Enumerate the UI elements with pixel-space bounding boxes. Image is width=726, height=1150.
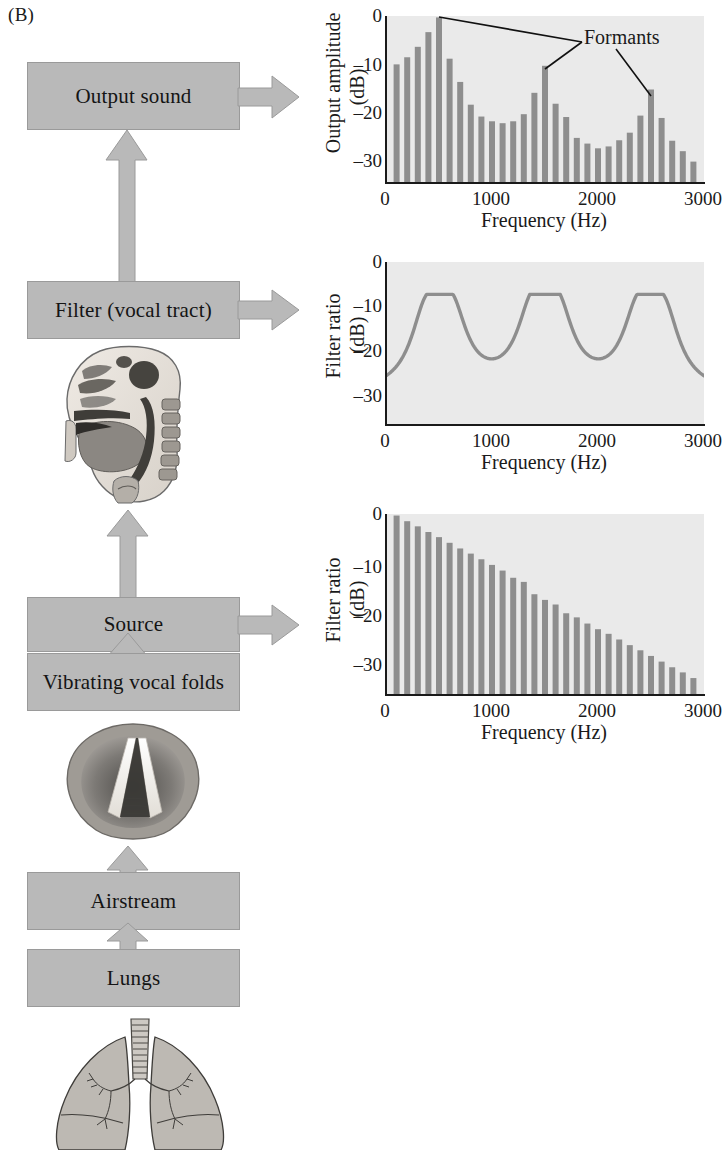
bar [627,645,633,694]
illustration-vocal-folds-larynx [58,718,208,843]
flow-box-label: Airstream [91,889,177,914]
chart3-xtick-0: 0 [365,700,405,722]
bar [584,624,590,694]
bar [489,565,495,694]
bar [531,594,537,694]
bar [542,600,548,694]
chart-output-spectrum: Output amplitude (dB) 0 –10 –20 –30 Form… [300,0,718,232]
bar [425,532,431,694]
bar [659,662,665,694]
flow-box-label: Vibrating vocal folds [43,670,224,695]
chart2-xlabel: Frequency (Hz) [444,451,644,474]
chart3-ytick-m30: –30 [338,654,382,676]
chart2-plot-area [386,262,704,424]
chart3-xlabel: Frequency (Hz) [444,721,644,744]
chart3-plot-area [386,514,704,694]
chart3-y-axis [385,514,387,695]
bar [553,605,559,694]
arrow-up-source-to-filter [107,510,149,600]
illustration-vocal-tract-sagittal [58,345,208,505]
bar [457,548,463,694]
arrow-right-output-sound [238,76,300,118]
bar [468,554,474,694]
chart2-ytick-0: 0 [338,251,382,273]
panel-label: (B) [8,4,34,26]
bar [669,667,675,694]
bar [563,613,569,694]
bar [616,639,622,694]
filter-curve [386,294,704,375]
bar [394,516,400,694]
flow-box-vibrating-vocal-folds[interactable]: Vibrating vocal folds [27,653,240,711]
arrow-up-filter-to-output [106,130,148,282]
bar [404,521,410,694]
bar [510,578,516,694]
chart2-curve [386,262,704,424]
chart1-xtick-3000: 3000 [672,188,726,210]
chart-source-spectrum: Filter ratio (dB) 0 –10 –20 –30 0 1000 2… [300,498,718,758]
flow-box-label: Output sound [75,84,191,109]
arrow-right-filter [238,290,300,330]
bar [521,582,527,694]
bar [648,656,654,694]
chart3-ytick-m10: –10 [338,556,382,578]
chart1-xlabel: Frequency (Hz) [444,209,644,232]
chart2-y-axis [385,262,387,425]
chart2-ytick-m30: –30 [338,385,382,407]
chart2-ytick-m10: –10 [338,295,382,317]
flow-box-airstream[interactable]: Airstream [27,872,240,930]
chart3-xtick-1000: 1000 [460,700,522,722]
chart1-xtick-2000: 2000 [566,188,628,210]
arrow-right-source [238,605,300,645]
bar [606,634,612,694]
chart3-bars [386,514,704,694]
bar [500,571,506,694]
bar [637,650,643,694]
chart1-annotation-formants: Formants [584,26,660,49]
chart-filter-transfer-function: Filter ratio (dB) 0 –10 –20 –30 0 1000 2… [300,248,718,480]
chart2-xtick-1000: 1000 [460,430,522,452]
chart2-x-axis [385,424,705,426]
bar [447,543,453,694]
chart2-xtick-0: 0 [365,430,405,452]
bar [478,559,484,694]
flow-box-filter-vocal-tract[interactable]: Filter (vocal tract) [27,281,240,339]
bar [595,629,601,694]
flow-box-lungs[interactable]: Lungs [27,949,240,1007]
chart1-xtick-1000: 1000 [460,188,522,210]
bar [415,526,421,694]
chart3-ytick-m20: –20 [338,605,382,627]
chart1-xtick-0: 0 [365,188,405,210]
chart3-x-axis [385,694,705,696]
bar [690,678,696,694]
flow-box-label: Lungs [107,966,161,991]
chart3-ytick-0: 0 [338,503,382,525]
chart3-ylabel-line1: Filter ratio [322,530,345,670]
bar [574,617,580,694]
bar [436,537,442,694]
flow-box-output-sound[interactable]: Output sound [27,62,240,130]
bar [680,672,686,694]
chart2-xtick-3000: 3000 [672,430,726,452]
chart2-ytick-m20: –20 [338,340,382,362]
illustration-lungs-trachea [45,1015,235,1150]
chart3-xtick-2000: 2000 [566,700,628,722]
chart3-xtick-3000: 3000 [672,700,726,722]
flow-box-label: Filter (vocal tract) [55,298,212,323]
chart2-xtick-2000: 2000 [566,430,628,452]
